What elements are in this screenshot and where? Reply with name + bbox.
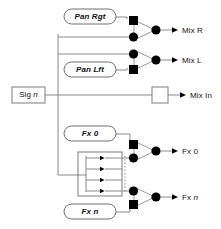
mix-r-circle-input-node	[129, 32, 138, 41]
mixer-fx-n[interactable]	[129, 186, 172, 209]
mix-l-circle-input-node	[129, 49, 138, 58]
fx-n-control-label[interactable]: Fx n	[64, 207, 116, 216]
fxn-control-wire	[116, 203, 130, 212]
passthrough-mix-in[interactable]	[152, 87, 180, 103]
sig-source-label: Sig n	[12, 90, 45, 99]
output-label-mix-in: Mix In	[190, 91, 212, 100]
fx-send-bus-box[interactable]	[78, 152, 131, 196]
mix-in-box-node	[152, 87, 168, 103]
mixer-mix-r[interactable]	[129, 16, 172, 42]
output-label-fx-n: Fx n	[182, 193, 198, 202]
sig-source-label-index: n	[33, 90, 38, 99]
fx0-control-wire	[116, 134, 130, 143]
pan-lft-wire	[116, 68, 127, 70]
output-label-mix-l: Mix L	[182, 56, 202, 65]
pan-lft-label[interactable]: Pan Lft	[64, 65, 116, 74]
mixer-fx-0[interactable]	[129, 140, 172, 163]
fx0-circle-input-node	[129, 153, 138, 162]
output-label-fx-0: Fx 0	[182, 147, 198, 156]
mix-r-output-node	[151, 25, 160, 34]
fxn-output-node	[151, 192, 160, 201]
mixer-mix-l[interactable]	[129, 49, 172, 74]
fxn-square-input-node	[129, 200, 138, 209]
mix-r-square-input-node	[129, 16, 138, 25]
signal-routing-diagram: Sig n Pan Rgt Pan Lft Fx 0 Fx n Mix R Mi…	[0, 0, 221, 229]
fx0-output-node	[151, 146, 160, 155]
mix-l-output-node	[151, 55, 160, 64]
sig-source-label-text: Sig	[19, 90, 33, 99]
fx-0-control-label[interactable]: Fx 0	[64, 129, 116, 138]
pan-rgt-wire	[116, 17, 127, 19]
fx0-square-input-node	[129, 140, 138, 149]
mix-l-square-input-node	[129, 65, 138, 74]
fxn-circle-input-node	[129, 186, 138, 195]
output-label-mix-r: Mix R	[182, 26, 203, 35]
pan-rgt-label[interactable]: Pan Rgt	[64, 12, 116, 21]
